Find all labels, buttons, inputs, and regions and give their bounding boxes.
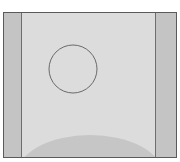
- bottom-dome-shape: [18, 135, 162, 157]
- diagram-canvas: [4, 13, 176, 157]
- diagram-frame: [3, 12, 177, 158]
- outline-circle-shape: [49, 45, 97, 93]
